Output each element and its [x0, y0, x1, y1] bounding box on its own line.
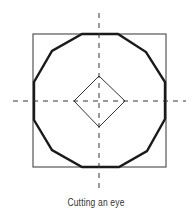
- figure-caption: Cutting an eye: [14, 197, 177, 208]
- cutting-an-eye-diagram: [0, 0, 192, 218]
